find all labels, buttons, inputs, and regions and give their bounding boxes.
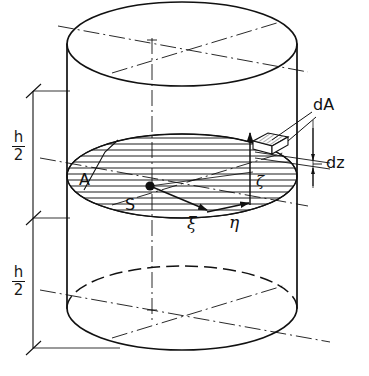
dimension-label-lower-h2: h 2 — [12, 265, 25, 299]
cylinder-top-rim — [67, 2, 297, 86]
upper-h-denominator: 2 — [13, 148, 25, 163]
bottom-ellipse-visible-half — [67, 308, 297, 350]
cylinder-drawing-canvas — [0, 0, 369, 376]
centroid-label: S — [125, 197, 135, 213]
element-da-box — [253, 133, 288, 154]
axis-zeta-label: ζ — [256, 174, 264, 189]
bottom-centerline-minor — [112, 285, 286, 338]
top-ellipse — [67, 2, 297, 86]
bottom-ellipse-hidden-half — [67, 266, 297, 308]
dimension-label-upper-h2: h 2 — [12, 130, 25, 164]
lower-h-denominator: 2 — [13, 283, 25, 298]
area-label: A — [79, 172, 90, 188]
technical-diagram: h 2 h 2 A S ξ η ζ dA dz — [0, 0, 369, 376]
element-area-label: dA — [313, 97, 334, 113]
top-centerline-minor — [112, 22, 280, 73]
dz-dimension — [255, 120, 330, 188]
lower-h-numerator: h — [13, 265, 25, 280]
top-centerline-major — [58, 26, 308, 72]
axis-xi-label: ξ — [187, 215, 196, 232]
element-thickness-label: dz — [326, 155, 345, 171]
cylinder-bottom-rim — [67, 266, 297, 350]
bottom-centerline-major — [40, 290, 330, 342]
local-coordinate-axes — [150, 133, 253, 212]
height-dimension — [26, 84, 120, 355]
axis-eta-label: η — [229, 214, 239, 231]
upper-h-numerator: h — [13, 130, 25, 145]
centroid-marker — [145, 181, 154, 190]
